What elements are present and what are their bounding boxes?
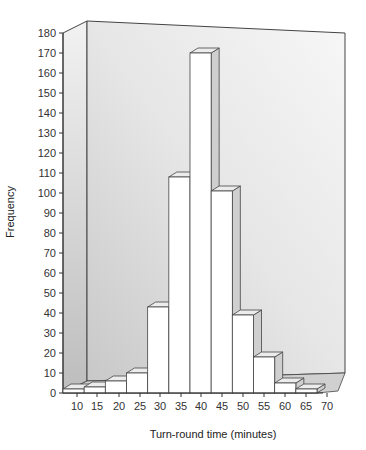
y-tick-label: 90 [44, 207, 56, 219]
y-tick-label: 130 [38, 127, 56, 139]
y-tick-label: 40 [44, 307, 56, 319]
x-tick-label: 25 [134, 400, 146, 412]
x-tick-label: 40 [195, 400, 207, 412]
x-tick-label: 65 [300, 400, 312, 412]
y-tick-label: 30 [44, 327, 56, 339]
histogram-chart: 0102030405060708090100110120130140150160… [0, 0, 366, 450]
y-tick-label: 170 [38, 47, 56, 59]
x-axis: 10152025303540455055606570 [63, 393, 333, 412]
y-tick-label: 160 [38, 67, 56, 79]
y-axis: 0102030405060708090100110120130140150160… [38, 27, 63, 399]
y-tick-label: 100 [38, 187, 56, 199]
y-tick-label: 60 [44, 267, 56, 279]
y-tick-label: 80 [44, 227, 56, 239]
y-tick-label: 50 [44, 287, 56, 299]
x-tick-label: 30 [154, 400, 166, 412]
x-tick-label: 20 [113, 400, 125, 412]
x-tick-label: 60 [279, 400, 291, 412]
y-tick-label: 70 [44, 247, 56, 259]
y-tick-label: 20 [44, 347, 56, 359]
x-tick-label: 10 [71, 400, 83, 412]
y-axis-title: Frequency [4, 186, 16, 238]
x-tick-label: 45 [216, 400, 228, 412]
y-tick-label: 180 [38, 27, 56, 39]
y-tick-label: 150 [38, 87, 56, 99]
x-axis-title: Turn-round time (minutes) [150, 428, 277, 440]
x-tick-label: 70 [321, 400, 333, 412]
x-tick-label: 15 [91, 400, 103, 412]
x-tick-label: 50 [237, 400, 249, 412]
y-tick-label: 120 [38, 147, 56, 159]
y-tick-label: 140 [38, 107, 56, 119]
y-tick-label: 0 [50, 387, 56, 399]
y-tick-label: 10 [44, 367, 56, 379]
y-tick-label: 110 [38, 167, 56, 179]
x-tick-label: 55 [258, 400, 270, 412]
x-tick-label: 35 [175, 400, 187, 412]
left-wall [63, 21, 87, 393]
